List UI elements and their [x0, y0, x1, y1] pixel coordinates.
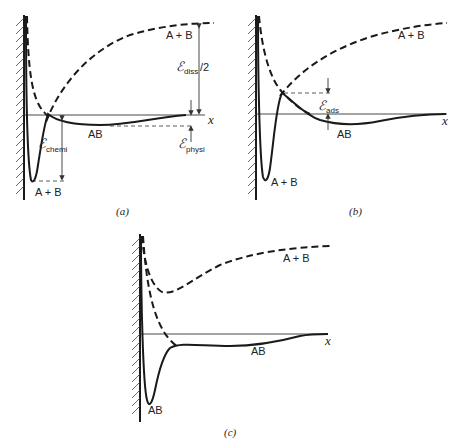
- solid-curve-a: [26, 16, 186, 181]
- label-deep-a: A + B: [35, 186, 62, 198]
- e-chemi-sub: chemi: [46, 145, 68, 154]
- dashed-curve-repulsive-a: [27, 16, 52, 117]
- panel-c: x A + B AB AB (c): [132, 234, 333, 439]
- dashed-curve-repulsive-b: [259, 16, 310, 114]
- caption-b: (b): [349, 205, 362, 218]
- caption-a: (a): [116, 205, 129, 218]
- label-deep-b: A + B: [271, 176, 298, 188]
- caption-c: (c): [224, 426, 237, 439]
- label-dashed-a: A + B: [166, 29, 193, 41]
- label-dashed-b: A + B: [398, 29, 425, 41]
- label-deep-c: AB: [148, 404, 163, 416]
- axis-label-a: x: [207, 112, 214, 127]
- e-ads-sub: ads: [326, 106, 339, 115]
- e-diss-sub: diss: [184, 67, 198, 76]
- e-diss-suffix: /2: [200, 61, 209, 73]
- surface-wall-a: [16, 15, 24, 200]
- axis-label-c: x: [324, 333, 331, 348]
- label-ab-b: AB: [337, 128, 352, 140]
- dashed-curve-upper-c: [142, 236, 333, 293]
- label-dashed-c: A + B: [283, 252, 310, 264]
- panel-a: x A + B AB A + B ℰ diss /2 ℰ chemi ℰ phy…: [16, 15, 214, 218]
- surface-wall-c: [132, 234, 140, 422]
- e-physi-sub: physi: [186, 145, 205, 154]
- axis-label-b: x: [441, 113, 448, 128]
- label-ab-a: AB: [88, 128, 103, 140]
- panel-b: x A + B AB A + B ℰ ads (b): [248, 15, 448, 218]
- label-ab-c: AB: [251, 345, 266, 357]
- surface-wall-b: [248, 15, 256, 200]
- potential-energy-diagram: x A + B AB A + B ℰ diss /2 ℰ chemi ℰ phy…: [0, 0, 460, 447]
